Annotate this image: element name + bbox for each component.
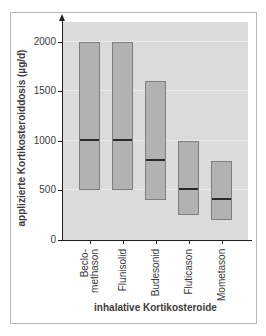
median-line [113, 139, 132, 141]
figure-page: { "chart_data": { "type": "bar", "varian… [0, 0, 266, 336]
y-tick-label: 500 [21, 184, 56, 195]
median-line [146, 159, 165, 161]
x-tick-mark [222, 240, 223, 244]
plot-area [63, 22, 248, 240]
y-tick-mark [58, 42, 62, 43]
range-bar [178, 141, 199, 215]
range-bar [145, 81, 166, 200]
y-tick-label: 1000 [21, 135, 56, 146]
y-axis-line [62, 18, 63, 240]
median-line [179, 188, 198, 190]
x-category-label: Fluticason [184, 249, 194, 301]
x-category-label: Beclo- methason [80, 249, 100, 301]
median-line [212, 198, 231, 200]
x-tick-mark [90, 240, 91, 244]
y-tick-mark [58, 91, 62, 92]
y-tick-mark [58, 240, 62, 241]
y-tick-mark [58, 190, 62, 191]
range-bar [79, 42, 100, 190]
x-tick-mark [156, 240, 157, 244]
x-category-label: Flunisolid [118, 249, 128, 301]
range-bar [112, 42, 133, 190]
x-tick-mark [123, 240, 124, 244]
y-tick-label: 2000 [21, 36, 56, 47]
y-tick-label: 0 [21, 234, 56, 245]
median-line [80, 139, 99, 141]
y-tick-label: 1500 [21, 85, 56, 96]
x-axis-line [62, 240, 252, 241]
x-category-label: Mometason [217, 249, 227, 301]
range-bar [211, 161, 232, 220]
x-category-label: Budesonid [151, 249, 161, 301]
figure-frame: applizierte Kortikosteroiddosis (µg/d) i… [10, 12, 257, 324]
y-tick-mark [58, 141, 62, 142]
x-tick-mark [189, 240, 190, 244]
x-axis-title: inhalative Kortikosteroide [63, 302, 248, 313]
